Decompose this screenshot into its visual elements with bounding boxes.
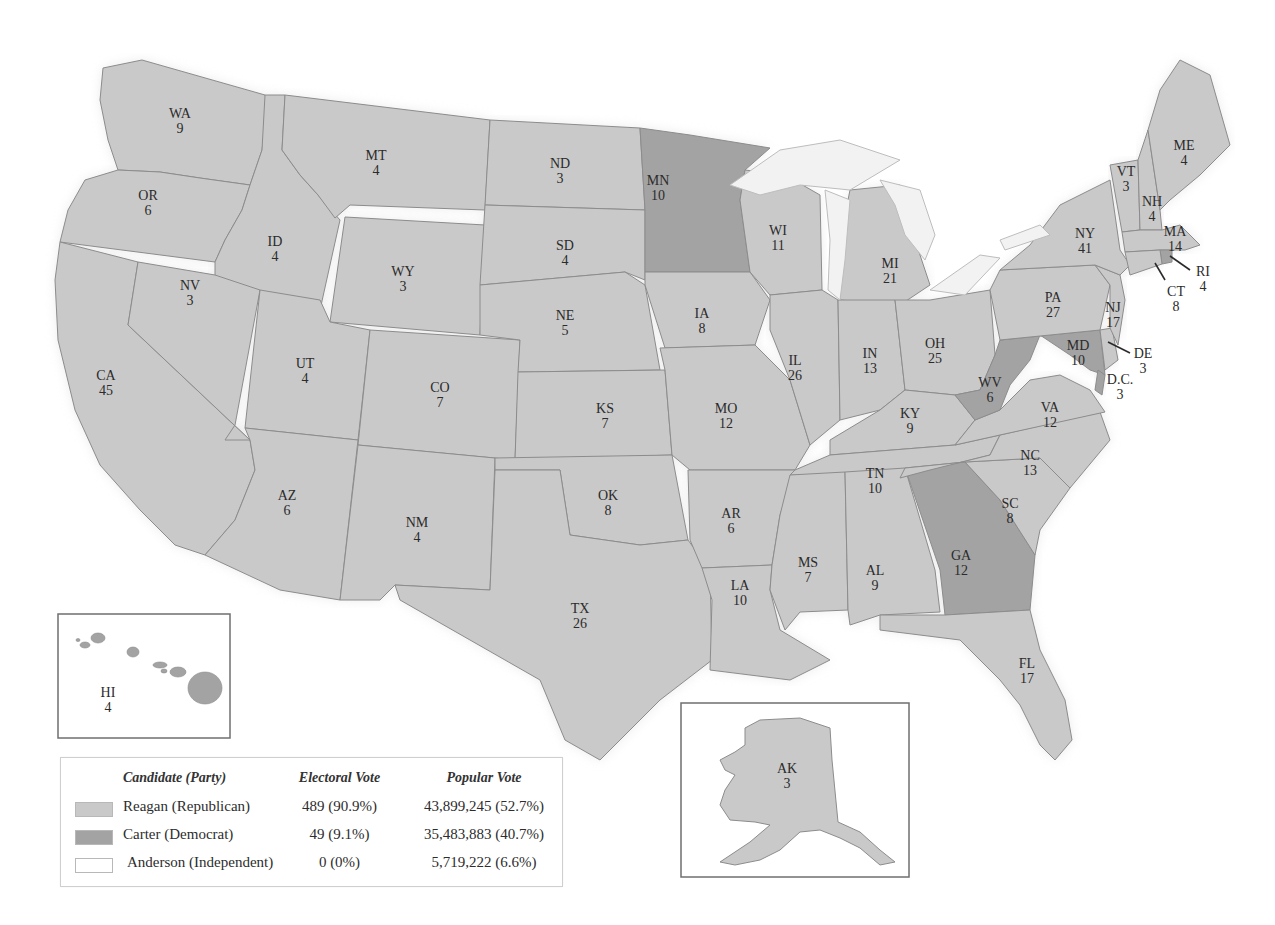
state-me [1148, 60, 1230, 210]
popular-vote: 5,719,222 (6.6%) [409, 854, 559, 871]
state-wa [100, 60, 268, 185]
swatch-carter [75, 830, 113, 845]
state-ct [1125, 250, 1162, 275]
state-hi-island [80, 642, 90, 648]
state-hi-island [170, 667, 186, 677]
legend-row-anderson: Anderson (Independent) 0 (0%) 5,719,222 … [61, 854, 562, 878]
electoral-vote: 49 (9.1%) [287, 826, 392, 843]
label-fl: FL17 [1019, 656, 1035, 686]
candidate-name: Reagan (Republican) [123, 798, 250, 815]
label-il: IL26 [788, 353, 802, 383]
legend-header-electoral: Electoral Vote [287, 770, 392, 786]
popular-vote: 35,483,883 (40.7%) [409, 826, 559, 843]
label-mi: MI21 [881, 256, 898, 286]
candidate-name: Anderson (Independent) [127, 854, 273, 871]
swatch-reagan [75, 802, 113, 817]
legend-header-candidate: Candidate (Party) [123, 770, 226, 786]
legend-row-reagan: Reagan (Republican) 489 (90.9%) 43,899,2… [61, 798, 562, 822]
label-tn: TN10 [866, 466, 885, 496]
state-hi-island [161, 669, 167, 673]
label-ri: RI4 [1196, 264, 1210, 294]
label-nc: NC13 [1020, 448, 1039, 478]
label-tx: TX26 [571, 601, 590, 631]
state-ny [1000, 180, 1130, 275]
leader-line-ri [1170, 256, 1190, 270]
state-hi-island [153, 662, 167, 668]
legend: Candidate (Party) Electoral Vote Popular… [60, 757, 563, 887]
candidate-name: Carter (Democrat) [123, 826, 233, 843]
label-wi: WI11 [769, 223, 787, 253]
popular-vote: 43,899,245 (52.7%) [409, 798, 559, 815]
legend-row-carter: Carter (Democrat) 49 (9.1%) 35,483,883 (… [61, 826, 562, 850]
state-hi-island [76, 639, 80, 642]
hawaii-inset: HI4 [58, 614, 230, 738]
label-de: DE3 [1134, 346, 1153, 376]
state-dc [1095, 370, 1105, 395]
state-ks [515, 370, 672, 460]
label-in: IN13 [863, 346, 878, 376]
label-nj: NJ17 [1105, 300, 1121, 330]
alaska-inset: AK3 [681, 703, 909, 877]
swatch-anderson [75, 858, 113, 873]
legend-header: Candidate (Party) Electoral Vote Popular… [61, 770, 562, 794]
electoral-vote: 0 (0%) [287, 854, 392, 871]
legend-header-popular: Popular Vote [409, 770, 559, 786]
label-dc: D.C.3 [1107, 372, 1133, 402]
label-pa: PA27 [1045, 290, 1063, 320]
state-hi-island [188, 672, 222, 704]
lake-lake-erie [930, 255, 1000, 295]
state-hi-island [91, 633, 105, 643]
state-hi-island [127, 647, 139, 657]
leader-line-ct [1155, 263, 1165, 280]
electoral-vote: 489 (90.9%) [287, 798, 392, 815]
label-ct: CT8 [1167, 284, 1185, 314]
